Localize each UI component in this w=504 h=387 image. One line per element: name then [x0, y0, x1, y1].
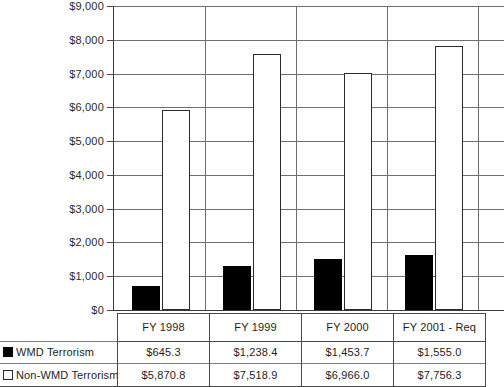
y-axis-tick-label: $6,000	[0, 102, 104, 113]
legend-item-nonwmd: Non-WMD Terrorism	[0, 364, 118, 387]
gridline	[114, 6, 504, 7]
gridline	[114, 40, 504, 41]
column-header-3: FY 2001 - Req	[394, 314, 486, 342]
table-row: WMD Terrorism $645.3$1,238.4$1,453.7$1,5…	[0, 341, 486, 364]
filled-square-icon	[3, 347, 13, 357]
y-axis-tick-label: $2,000	[0, 237, 104, 248]
legend-header-cell	[0, 314, 118, 342]
bar-wmd	[314, 259, 342, 310]
y-axis-tick-label: $5,000	[0, 136, 104, 147]
data-cell: $5,870.8	[118, 364, 210, 387]
column-header-2: FY 2000	[302, 314, 394, 342]
chart-plot-region: $0$1,000$2,000$3,000$4,000$5,000$6,000$7…	[0, 0, 478, 313]
data-cell: $1,555.0	[394, 341, 486, 364]
bar-wmd	[405, 255, 433, 310]
legend-label-nonwmd: Non-WMD Terrorism	[16, 369, 118, 381]
y-axis-tick-label: $8,000	[0, 34, 104, 45]
y-axis-tick-label: $9,000	[0, 1, 104, 12]
axis-baseline	[114, 310, 504, 311]
column-header-1: FY 1999	[210, 314, 302, 342]
table-header-row: FY 1998FY 1999FY 2000FY 2001 - Req	[0, 314, 486, 342]
category-separator	[296, 6, 297, 310]
y-axis-tick-labels: $0$1,000$2,000$3,000$4,000$5,000$6,000$7…	[0, 0, 104, 313]
column-header-0: FY 1998	[118, 314, 210, 342]
category-separator	[478, 6, 479, 310]
y-axis-tick-label: $7,000	[0, 68, 104, 79]
legend-item-wmd: WMD Terrorism	[0, 341, 118, 364]
category-separator	[205, 6, 206, 310]
y-axis-tick-label: $3,000	[0, 203, 104, 214]
bar-nonwmd	[162, 110, 190, 310]
y-axis-tick-label: $4,000	[0, 169, 104, 180]
bar-nonwmd	[435, 46, 463, 310]
hollow-square-icon	[3, 370, 13, 380]
data-cell: $1,238.4	[210, 341, 302, 364]
data-cell: $7,756.3	[394, 364, 486, 387]
table-row: Non-WMD Terrorism $5,870.8$7,518.9$6,966…	[0, 364, 486, 387]
bar-nonwmd	[344, 73, 372, 310]
data-cell: $7,518.9	[210, 364, 302, 387]
bar-wmd	[223, 266, 251, 310]
bar-nonwmd	[253, 54, 281, 310]
y-axis-tick-label: $1,000	[0, 271, 104, 282]
bar-wmd	[132, 286, 160, 310]
plot-area	[114, 6, 504, 310]
category-separator	[387, 6, 388, 310]
chart-data-table: FY 1998FY 1999FY 2000FY 2001 - Req WMD T…	[0, 313, 486, 387]
legend-label-wmd: WMD Terrorism	[16, 346, 94, 358]
data-cell: $645.3	[118, 341, 210, 364]
data-cell: $1,453.7	[302, 341, 394, 364]
data-cell: $6,966.0	[302, 364, 394, 387]
